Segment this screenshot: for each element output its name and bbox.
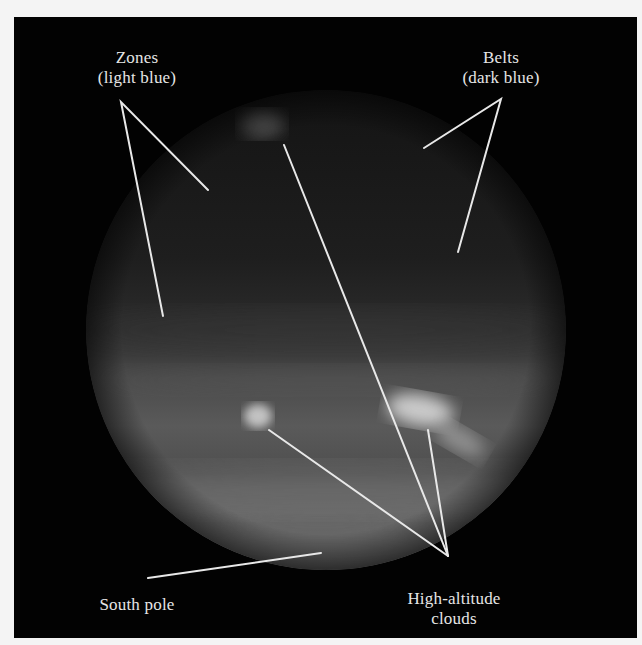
- planet-disk: [70, 90, 590, 578]
- label-clouds-title: High-altitude: [389, 589, 519, 609]
- label-zones-title: Zones: [72, 48, 202, 68]
- label-clouds-note: clouds: [389, 609, 519, 629]
- label-south-pole-title: South pole: [82, 595, 192, 615]
- planet-illustration: [14, 17, 637, 638]
- label-belts-title: Belts: [436, 48, 566, 68]
- label-zones-note: (light blue): [72, 68, 202, 88]
- label-clouds: High-altitude clouds: [389, 589, 519, 629]
- image-frame: Zones (light blue) Belts (dark blue) Hig…: [14, 17, 637, 638]
- label-belts-note: (dark blue): [436, 68, 566, 88]
- label-belts: Belts (dark blue): [436, 48, 566, 88]
- label-zones: Zones (light blue): [72, 48, 202, 88]
- label-south-pole: South pole: [82, 595, 192, 615]
